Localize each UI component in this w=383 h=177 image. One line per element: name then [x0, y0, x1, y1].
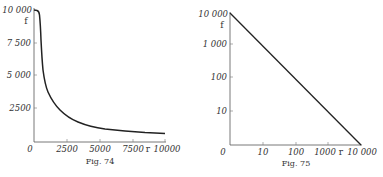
- fig74-ytick-7500: 7 500: [7, 38, 32, 48]
- fig75-xtick-100: 100: [288, 147, 305, 157]
- fig75-xtick-10: 10: [258, 147, 269, 157]
- fig74-xtick-0: 0: [27, 144, 33, 154]
- fig75-xlabel: r: [339, 147, 344, 157]
- fig74-xtick-2500: 2500: [55, 144, 78, 154]
- fig74-ytick-5000: 5 000: [7, 70, 32, 80]
- fig75-line: [230, 13, 361, 145]
- fig75-ylabel: f: [220, 20, 224, 30]
- fig75-ytick-1000: 1 000: [203, 39, 228, 49]
- fig74-xtick-10000: 10000: [153, 144, 181, 154]
- fig74-ticks: [34, 43, 165, 142]
- fig74-curve: [34, 10, 165, 134]
- fig74-xtick-5000: 5000: [89, 144, 111, 154]
- fig75-chart: 10 000 f 1 000 100 10 0 10 100 1000 r 10…: [198, 9, 377, 168]
- fig74-ylabel: f: [24, 16, 28, 26]
- fig74-xlabel: r: [146, 144, 151, 154]
- fig75-ytick-10000: 10 000: [198, 9, 228, 19]
- fig75-xtick-10000: 10 000: [347, 147, 377, 157]
- fig75-xtick-1000: 1000: [314, 147, 336, 157]
- fig75-ticks: [230, 44, 328, 145]
- figures-canvas: 10 000 f 7 500 5 000 2500 0 2500 5000 75…: [0, 0, 383, 177]
- fig75-ytick-100: 100: [211, 72, 228, 82]
- fig74-ytick-10000: 10 000: [2, 5, 32, 15]
- fig75-ytick-10: 10: [216, 106, 227, 116]
- fig75-caption: Fig. 75: [282, 159, 311, 168]
- fig74-chart: 10 000 f 7 500 5 000 2500 0 2500 5000 75…: [2, 5, 181, 166]
- fig74-ytick-2500: 2500: [8, 103, 31, 113]
- fig75-xtick-0: 0: [220, 147, 226, 157]
- fig74-xtick-7500: 7500: [122, 144, 144, 154]
- fig74-caption: Fig. 74: [86, 157, 115, 166]
